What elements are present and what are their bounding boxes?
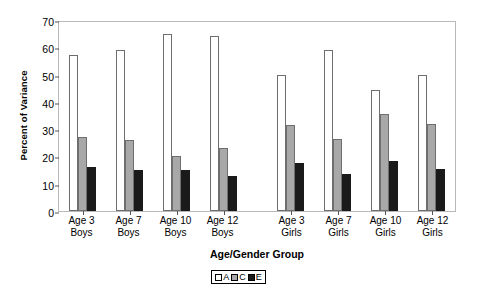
- bar-e: [436, 169, 445, 211]
- x-axis-tick-label-line: Age 3: [278, 215, 304, 227]
- bar-e: [87, 167, 96, 211]
- x-axis-tick-label-line: Age 3: [68, 215, 94, 227]
- label-block-girls: Age 3GirlsAge 7GirlsAge 10GirlsAge 12Gir…: [268, 215, 456, 245]
- legend-item-a: A: [215, 272, 231, 282]
- bar-group: [267, 22, 314, 211]
- bar-a: [371, 90, 380, 211]
- x-axis-tick-label-line: Girls: [328, 227, 349, 239]
- bar-block-girls: [267, 22, 455, 211]
- bar-c: [219, 148, 228, 211]
- bar-a: [163, 34, 172, 211]
- chart-legend: ACE: [0, 270, 477, 284]
- bar-a: [324, 50, 333, 211]
- bar-c: [172, 156, 181, 211]
- bar-series-container: [59, 22, 455, 211]
- bar-e: [181, 170, 190, 211]
- y-axis-title-text: Percent of Variance: [18, 70, 29, 160]
- legend-item-e: E: [248, 272, 262, 282]
- x-axis-tick-label: Age 10Boys: [152, 215, 199, 245]
- y-axis-tick-mark: [55, 213, 59, 214]
- legend-label: A: [223, 272, 229, 282]
- legend-item-c: C: [231, 272, 248, 282]
- legend-label: E: [256, 272, 262, 282]
- x-axis-tick-label-line: Girls: [375, 227, 396, 239]
- bar-group: [153, 22, 200, 211]
- x-axis-tick-label-line: Age 12: [417, 215, 449, 227]
- x-axis-tick-label-line: Age 10: [160, 215, 192, 227]
- label-block-boys: Age 3BoysAge 7BoysAge 10BoysAge 12Boys: [58, 215, 246, 245]
- bar-c: [427, 124, 436, 211]
- x-axis-tick-label-line: Boys: [70, 227, 92, 239]
- x-axis-tick-label-line: Boys: [117, 227, 139, 239]
- bar-e: [134, 170, 143, 211]
- x-axis-tick-label-line: Age 7: [115, 215, 141, 227]
- legend-box: ACE: [211, 270, 266, 284]
- x-axis-tick-label-line: Age 12: [207, 215, 239, 227]
- bar-a: [69, 55, 78, 211]
- bar-e: [228, 176, 237, 211]
- bar-group: [361, 22, 408, 211]
- x-axis-tick-label: Age 12Girls: [409, 215, 456, 245]
- bar-a: [418, 75, 427, 211]
- bar-c: [286, 125, 295, 211]
- x-axis-tick-labels: Age 3BoysAge 7BoysAge 10BoysAge 12BoysAg…: [58, 215, 456, 245]
- x-axis-tick-label-line: Girls: [281, 227, 302, 239]
- bar-block-boys: [59, 22, 247, 211]
- y-axis-title: Percent of Variance: [10, 0, 36, 230]
- bar-group: [408, 22, 455, 211]
- x-axis-title: Age/Gender Group: [58, 248, 456, 260]
- bar-chart-figure: Percent of Variance 010203040506070 Age …: [0, 0, 477, 296]
- legend-label: C: [239, 272, 246, 282]
- x-axis-tick-label-line: Girls: [422, 227, 443, 239]
- bar-group: [314, 22, 361, 211]
- x-axis-tick-label: Age 7Girls: [315, 215, 362, 245]
- bar-e: [389, 161, 398, 211]
- bar-c: [380, 114, 389, 211]
- open-square-swatch: [215, 274, 222, 281]
- x-axis-tick-label-line: Boys: [164, 227, 186, 239]
- bar-c: [125, 140, 134, 211]
- bar-e: [342, 174, 351, 211]
- bar-group: [59, 22, 106, 211]
- x-axis-tick-label: Age 12Boys: [199, 215, 246, 245]
- bar-a: [277, 75, 286, 211]
- bar-c: [333, 139, 342, 211]
- block-separator-gap: [247, 22, 267, 211]
- x-axis-tick-label: Age 3Boys: [58, 215, 105, 245]
- x-axis-tick-label: Age 7Boys: [105, 215, 152, 245]
- bar-a: [210, 36, 219, 211]
- x-axis-tick-label-line: Age 10: [370, 215, 402, 227]
- black-square-swatch: [248, 274, 255, 281]
- plot-area: 010203040506070: [58, 21, 456, 212]
- gray-square-swatch: [231, 274, 238, 281]
- bar-c: [78, 137, 87, 211]
- x-axis-tick-label: Age 3Girls: [268, 215, 315, 245]
- bar-e: [295, 163, 304, 211]
- bar-a: [116, 50, 125, 211]
- x-axis-tick-label-line: Age 7: [325, 215, 351, 227]
- bar-group: [200, 22, 247, 211]
- x-axis-tick-label-line: Boys: [211, 227, 233, 239]
- x-axis-tick-label: Age 10Girls: [362, 215, 409, 245]
- bar-group: [106, 22, 153, 211]
